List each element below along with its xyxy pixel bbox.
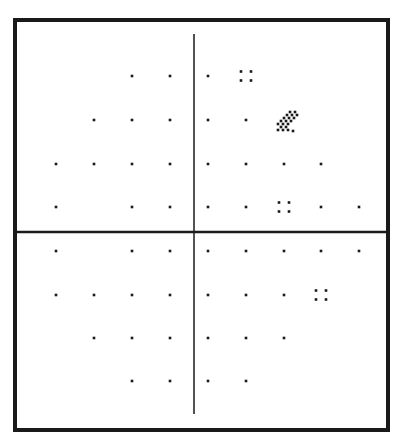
normal-dot-icon (93, 163, 96, 166)
normal-dot-icon (207, 119, 210, 122)
checker-p1-icon (277, 111, 299, 133)
normal-dot-icon (131, 337, 134, 340)
normal-dot-icon (320, 206, 323, 209)
normal-dot-icon (169, 206, 172, 209)
normal-dot-icon (169, 75, 172, 78)
normal-dot-icon (169, 294, 172, 297)
normal-dot-icon (131, 206, 134, 209)
normal-dot-icon (207, 294, 210, 297)
normal-dot-icon (131, 75, 134, 78)
normal-dot-icon (283, 250, 286, 253)
normal-dot-icon (131, 119, 134, 122)
normal-dot-icon (169, 380, 172, 383)
normal-dot-icon (283, 294, 286, 297)
normal-dot-icon (131, 294, 134, 297)
normal-dot-icon (245, 337, 248, 340)
normal-dot-icon (245, 206, 248, 209)
normal-dot-icon (207, 206, 210, 209)
normal-dot-icon (55, 206, 58, 209)
normal-dot-icon (169, 337, 172, 340)
normal-dot-icon (131, 250, 134, 253)
four-dot-p5-icon (315, 289, 328, 301)
normal-dot-icon (131, 163, 134, 166)
symbol-layer (55, 70, 361, 382)
normal-dot-icon (320, 163, 323, 166)
plot-frame (15, 20, 388, 430)
normal-dot-icon (358, 250, 361, 253)
normal-dot-icon (93, 337, 96, 340)
normal-dot-icon (320, 250, 323, 253)
visual-field-plot (0, 0, 399, 440)
normal-dot-icon (245, 163, 248, 166)
normal-dot-icon (169, 250, 172, 253)
normal-dot-icon (55, 250, 58, 253)
normal-dot-icon (245, 119, 248, 122)
normal-dot-icon (55, 294, 58, 297)
normal-dot-icon (169, 163, 172, 166)
normal-dot-icon (358, 206, 361, 209)
normal-dot-icon (131, 380, 134, 383)
normal-dot-icon (207, 380, 210, 383)
normal-dot-icon (169, 119, 172, 122)
normal-dot-icon (55, 163, 58, 166)
normal-dot-icon (93, 294, 96, 297)
normal-dot-icon (207, 75, 210, 78)
normal-dot-icon (245, 294, 248, 297)
normal-dot-icon (283, 163, 286, 166)
normal-dot-icon (207, 163, 210, 166)
normal-dot-icon (283, 337, 286, 340)
four-dot-p5-icon (278, 201, 291, 213)
four-dot-p5-icon (240, 70, 253, 82)
normal-dot-icon (245, 250, 248, 253)
normal-dot-icon (245, 380, 248, 383)
normal-dot-icon (207, 337, 210, 340)
normal-dot-icon (207, 250, 210, 253)
normal-dot-icon (93, 119, 96, 122)
